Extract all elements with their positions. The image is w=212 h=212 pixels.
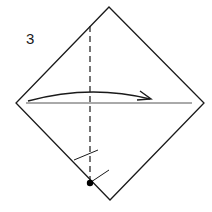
origami-diagram: 3 bbox=[0, 0, 212, 212]
tick-mark-upper bbox=[74, 150, 98, 160]
step-number: 3 bbox=[26, 30, 34, 47]
reference-point-dot bbox=[87, 180, 93, 186]
tick-mark-lower bbox=[91, 170, 109, 182]
fold-arrow bbox=[28, 92, 150, 101]
arrow-head-icon bbox=[137, 91, 151, 100]
